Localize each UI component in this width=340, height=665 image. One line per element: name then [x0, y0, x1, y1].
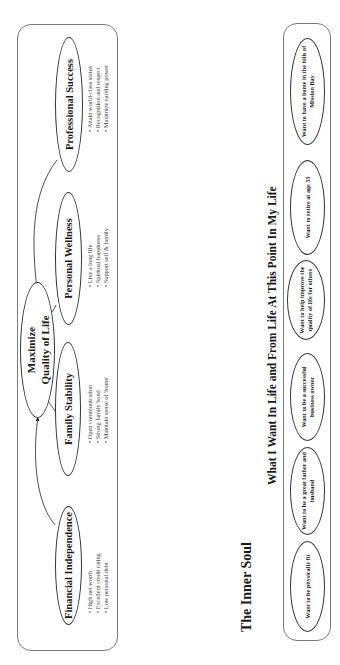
bullet-item: Open communication: [86, 377, 94, 443]
bullet-item: Spiritual happiness: [94, 228, 102, 287]
want-oval-father-husband: Want to be a great father and husband: [290, 447, 325, 535]
want-text: Want to help improve the quality of life…: [298, 261, 313, 339]
want-oval-help-others: Want to help improve the quality of life…: [287, 260, 325, 340]
personal-wellness-bullets: Live a long life Spiritual happiness Sup…: [86, 228, 111, 287]
pillar-label: Financial Independence: [63, 512, 74, 619]
want-text: Want to retire at age 55: [304, 172, 312, 242]
bullet-item: Attain world-class status: [86, 65, 94, 132]
section-title: The Inner Soul: [239, 542, 255, 632]
bullet-item: Low personal debt: [102, 553, 110, 613]
pillar-label: Professional Success: [64, 59, 75, 150]
want-text: Want to have a home in the hills of Miss…: [300, 39, 315, 144]
want-oval-physically-fit: Want to be physically fit: [290, 541, 325, 632]
want-oval-mission-bay-home: Want to have a home in the hills of Miss…: [290, 38, 325, 145]
want-oval-business-owner: Want to be a successful business owner: [290, 353, 325, 441]
financial-independence-oval: Financial Independence: [55, 506, 82, 625]
bullet-item: Live a long life: [86, 228, 94, 287]
bullet-item: Support self & family: [102, 228, 110, 287]
pillar-label: Personal Wellness: [63, 218, 74, 299]
want-oval-retire-55: Want to retire at age 55: [290, 160, 325, 255]
bullet-item: Recognition and respect: [94, 65, 102, 132]
bullet-item: Excellent credit rating: [94, 553, 102, 613]
maximize-quality-of-life-oval: Maximize Quality of Life: [20, 282, 55, 418]
section-subtitle: What I Want In Life and From Life At Thi…: [266, 186, 278, 485]
center-line1: Maximize: [24, 315, 38, 384]
financial-independence-bullets: High net worth Excellent credit rating L…: [86, 553, 111, 613]
pillar-label: Family Stability: [63, 373, 74, 445]
want-text: Want to be a great father and husband: [300, 448, 315, 534]
professional-success-bullets: Attain world-class status Recognition an…: [86, 65, 111, 132]
personal-wellness-oval: Personal Wellness: [55, 192, 82, 325]
family-stability-oval: Family Stability: [55, 342, 81, 476]
bullet-item: Maintain sense of 'home': [102, 377, 110, 443]
family-stability-bullets: Open communication Strong family bond Ma…: [86, 377, 111, 443]
rotated-document-page: Maximize Quality of Life Financial Indep…: [0, 0, 340, 665]
bullet-item: High net worth: [86, 553, 94, 613]
professional-success-oval: Professional Success: [55, 37, 83, 172]
want-text: Want to be physically fit: [304, 550, 312, 622]
center-line2: Quality of Life: [38, 315, 52, 384]
bullet-item: Strong family bond: [94, 377, 102, 443]
want-text: Want to be a successful business owner: [300, 354, 315, 440]
bullet-item: Maximize earning power: [102, 65, 110, 132]
